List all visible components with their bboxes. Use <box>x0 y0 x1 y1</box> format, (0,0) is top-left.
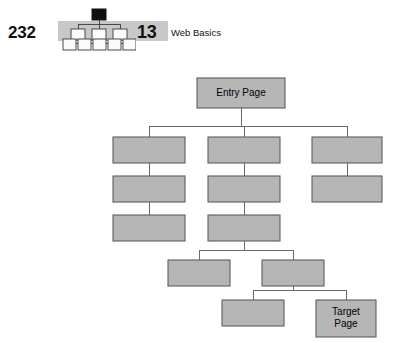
sitemap-node-labeled[interactable]: Entry Page <box>197 78 285 108</box>
node-rect[interactable] <box>208 137 280 163</box>
sitemap-node-labeled[interactable]: TargetPage <box>316 300 376 337</box>
node-rect[interactable] <box>312 176 382 202</box>
node-rect[interactable] <box>168 260 230 286</box>
site-tree-icon <box>62 7 136 52</box>
sitemap-node[interactable] <box>208 215 280 241</box>
node-label: Page <box>334 318 358 329</box>
chapter-title: Web Basics <box>171 27 221 38</box>
node-rect[interactable] <box>222 300 284 326</box>
sitemap-diagram: Entry PageTargetPage <box>0 62 409 343</box>
sitemap-node[interactable] <box>312 176 382 202</box>
chapter-number: 13 <box>137 22 156 43</box>
sitemap-node[interactable] <box>222 300 284 326</box>
sitemap-node[interactable] <box>208 137 280 163</box>
sitemap-canvas: Entry PageTargetPage <box>0 62 409 343</box>
folio-page-number: 232 <box>8 23 36 43</box>
sitemap-node[interactable] <box>113 215 185 241</box>
sitemap-node[interactable] <box>312 137 382 163</box>
node-rect[interactable] <box>113 176 185 202</box>
sitemap-node[interactable] <box>113 176 185 202</box>
node-rect[interactable] <box>312 137 382 163</box>
node-layer: Entry PageTargetPage <box>113 78 382 337</box>
node-rect[interactable] <box>208 215 280 241</box>
node-label: Target <box>332 306 360 317</box>
node-label: Entry Page <box>216 87 266 98</box>
sitemap-node[interactable] <box>208 176 280 202</box>
sitemap-node[interactable] <box>113 137 185 163</box>
node-rect[interactable] <box>113 137 185 163</box>
node-rect[interactable] <box>262 260 324 286</box>
sitemap-node[interactable] <box>168 260 230 286</box>
node-rect[interactable] <box>208 176 280 202</box>
sitemap-node[interactable] <box>262 260 324 286</box>
page-running-head: 232 <box>0 0 409 62</box>
node-rect[interactable] <box>113 215 185 241</box>
